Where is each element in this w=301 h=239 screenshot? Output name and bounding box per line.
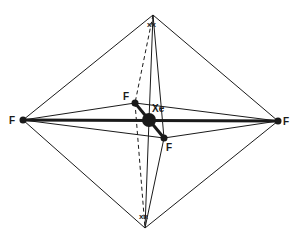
edge-top-right	[153, 15, 278, 121]
f-atom-front	[161, 135, 168, 142]
edge-front-right	[164, 121, 278, 138]
edge-bottom-left	[23, 120, 145, 228]
f-atom-left	[20, 117, 27, 124]
f-label-back: F	[123, 91, 129, 102]
f-label-right: F	[283, 116, 289, 127]
f-label-left: F	[9, 115, 15, 126]
edge-left-back	[23, 103, 135, 120]
xe-label: Xe	[152, 103, 165, 114]
f-atom-back	[132, 100, 139, 107]
lone-pair-bottom: xx	[139, 212, 148, 221]
lone-pair-top: xx	[147, 20, 156, 29]
f-atom-right	[275, 118, 282, 125]
f-label-front: F	[166, 142, 172, 153]
xef4-octahedral-diagram: Xe F F F F xx xx	[0, 0, 301, 239]
xe-atom	[142, 113, 156, 127]
